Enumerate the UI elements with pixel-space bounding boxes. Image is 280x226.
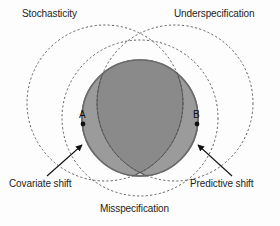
point-label-b: B [193,109,200,120]
label-misspecification: Misspecification [100,203,169,214]
label-covariate-shift: Covariate shift [9,178,71,189]
core-triple-overlap [0,0,280,226]
point-marker-b [195,122,200,127]
point-marker-a [81,122,86,127]
figure-root: Stochasticity Underspecification Misspec… [0,0,280,226]
shaded-core-group [0,0,280,226]
label-predictive-shift: Predictive shift [190,178,253,189]
predictive-shift-arrow [198,145,232,176]
point-label-a: A [79,109,86,120]
label-underspecification: Underspecification [174,8,254,19]
venn-diagram-svg [0,0,280,226]
label-stochasticity: Stochasticity [22,8,77,19]
covariate-shift-arrow [47,145,82,176]
